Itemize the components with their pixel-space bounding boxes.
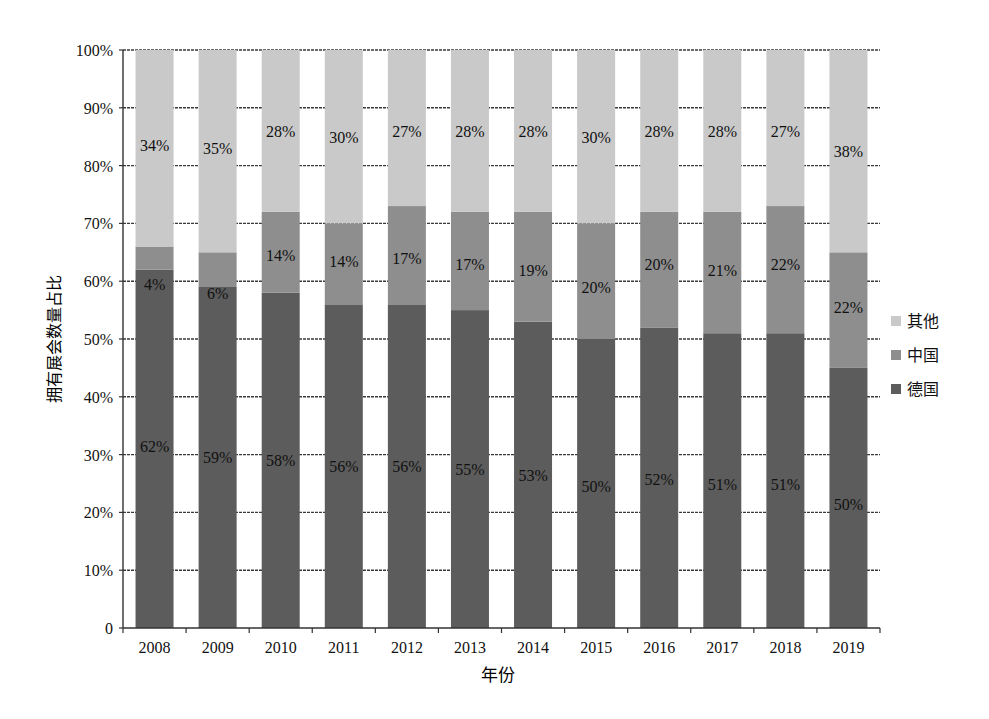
y-tick-label: 0 <box>105 620 113 637</box>
x-tick-label: 2010 <box>265 639 297 656</box>
data-label: 17% <box>392 250 421 267</box>
x-tick-label: 2015 <box>580 639 612 656</box>
y-tick-label: 70% <box>84 215 113 232</box>
data-label: 62% <box>140 438 169 455</box>
data-label: 28% <box>518 123 547 140</box>
data-label: 6% <box>207 285 228 302</box>
x-tick-label: 2019 <box>832 639 864 656</box>
data-label: 53% <box>518 467 547 484</box>
x-tick-label: 2009 <box>202 639 234 656</box>
x-tick-label: 2011 <box>328 639 359 656</box>
data-label: 22% <box>834 299 863 316</box>
legend-label: 其他 <box>907 312 939 331</box>
legend-label: 中国 <box>907 346 939 365</box>
data-label: 28% <box>645 123 674 140</box>
y-tick-label: 20% <box>84 504 113 521</box>
data-label: 30% <box>581 129 610 146</box>
data-label: 30% <box>329 129 358 146</box>
data-label: 34% <box>140 137 169 154</box>
x-tick-label: 2014 <box>517 639 549 656</box>
y-tick-label: 90% <box>84 100 113 117</box>
y-tick-label: 60% <box>84 273 113 290</box>
y-axis-title: 拥有展会数量占比 <box>45 275 64 403</box>
x-tick-label: 2016 <box>643 639 675 656</box>
legend: 其他中国德国 <box>891 312 939 399</box>
y-axis-ticks: 010%20%30%40%50%60%70%80%90%100% <box>76 42 123 637</box>
data-label: 22% <box>771 256 800 273</box>
data-label: 28% <box>266 123 295 140</box>
x-axis-title: 年份 <box>481 665 515 685</box>
data-label: 28% <box>455 123 484 140</box>
data-label: 52% <box>645 471 674 488</box>
y-tick-label: 10% <box>84 562 113 579</box>
data-label: 56% <box>329 458 358 475</box>
data-label: 14% <box>329 253 358 270</box>
stacked-bar-chart: 62%4%34%59%6%35%58%14%28%56%14%30%56%17%… <box>0 0 989 719</box>
x-axis-ticks: 2008200920102011201220132014201520162017… <box>123 628 880 656</box>
data-label: 27% <box>392 123 421 140</box>
bar-segment-2009 <box>199 252 237 287</box>
data-label: 59% <box>203 449 232 466</box>
bar-segment-2008 <box>136 247 174 270</box>
data-label: 51% <box>771 476 800 493</box>
data-label: 17% <box>455 256 484 273</box>
y-tick-label: 80% <box>84 158 113 175</box>
data-label: 21% <box>708 262 737 279</box>
y-tick-label: 30% <box>84 447 113 464</box>
y-tick-label: 40% <box>84 389 113 406</box>
data-label: 56% <box>392 458 421 475</box>
data-label: 27% <box>771 123 800 140</box>
legend-label: 德国 <box>907 380 939 399</box>
data-label: 4% <box>144 276 165 293</box>
data-label: 50% <box>834 496 863 513</box>
y-tick-label: 50% <box>84 331 113 348</box>
legend-swatch <box>891 384 901 394</box>
x-tick-label: 2018 <box>769 639 801 656</box>
x-tick-label: 2008 <box>139 639 171 656</box>
data-label: 20% <box>645 256 674 273</box>
data-label: 38% <box>834 143 863 160</box>
legend-swatch <box>891 316 901 326</box>
data-label: 58% <box>266 452 295 469</box>
data-label: 50% <box>581 478 610 495</box>
data-label: 20% <box>581 279 610 296</box>
x-tick-label: 2017 <box>706 639 738 656</box>
x-tick-label: 2013 <box>454 639 486 656</box>
data-label: 51% <box>708 476 737 493</box>
data-label: 28% <box>708 123 737 140</box>
y-tick-label: 100% <box>76 42 113 59</box>
data-label: 35% <box>203 140 232 157</box>
x-tick-label: 2012 <box>391 639 423 656</box>
data-label: 14% <box>266 247 295 264</box>
legend-swatch <box>891 350 901 360</box>
data-label: 55% <box>455 461 484 478</box>
data-label: 19% <box>518 262 547 279</box>
